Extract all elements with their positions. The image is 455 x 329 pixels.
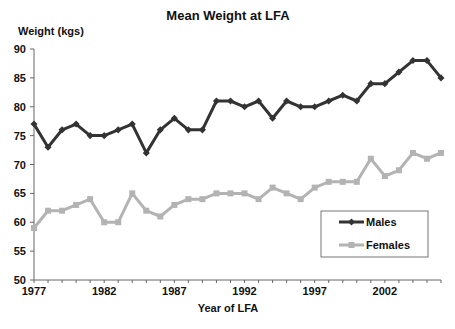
legend: Males Females: [321, 211, 428, 257]
x-tick-label: 1977: [22, 285, 46, 297]
data-point: [213, 190, 219, 196]
data-point: [424, 156, 430, 162]
y-tick-label: 65: [14, 187, 26, 199]
x-tick-label: 2002: [373, 285, 397, 297]
y-tick-label: 85: [14, 72, 26, 84]
data-point: [45, 208, 51, 214]
data-point: [115, 219, 121, 225]
data-point: [185, 196, 191, 202]
series-line: [34, 61, 441, 153]
data-point: [171, 202, 177, 208]
x-tick-label: 1997: [302, 285, 326, 297]
y-tick-label: 55: [14, 245, 26, 257]
data-point: [438, 150, 444, 156]
data-point: [382, 173, 388, 179]
data-point: [256, 196, 262, 202]
chart-svg: Mean Weight at LFA Weight (kgs) Year of …: [0, 0, 455, 329]
data-point: [326, 179, 332, 185]
data-point: [270, 185, 276, 191]
series-group: [30, 57, 444, 231]
data-point: [368, 156, 374, 162]
data-point: [312, 185, 318, 191]
x-tick-label: 1987: [162, 285, 186, 297]
y-tick-label: 90: [14, 43, 26, 55]
data-point: [101, 219, 107, 225]
data-point: [340, 179, 346, 185]
data-point: [143, 208, 149, 214]
y-axis-label: Weight (kgs): [18, 25, 84, 37]
data-point: [410, 150, 416, 156]
data-point: [73, 202, 79, 208]
y-tick-label: 70: [14, 159, 26, 171]
x-axis-label: Year of LFA: [198, 302, 259, 314]
chart-title: Mean Weight at LFA: [166, 8, 290, 23]
legend-label-females: Females: [366, 239, 410, 251]
series-males: [30, 57, 444, 156]
data-point: [396, 167, 402, 173]
data-point: [242, 190, 248, 196]
x-tick-label: 1992: [232, 285, 256, 297]
data-point: [87, 196, 93, 202]
data-point: [284, 190, 290, 196]
data-point: [227, 190, 233, 196]
data-point: [31, 225, 37, 231]
axes: 5055606570758085901977198219871992199720…: [14, 43, 441, 297]
data-point: [157, 213, 163, 219]
y-tick-label: 80: [14, 101, 26, 113]
data-point: [354, 179, 360, 185]
y-tick-label: 60: [14, 216, 26, 228]
data-point: [199, 196, 205, 202]
x-tick-label: 1982: [92, 285, 116, 297]
y-tick-label: 75: [14, 130, 26, 142]
data-point: [129, 190, 135, 196]
legend-label-males: Males: [366, 216, 397, 228]
data-point: [59, 208, 65, 214]
line-chart: Mean Weight at LFA Weight (kgs) Year of …: [0, 0, 455, 329]
square-marker-icon: [349, 242, 355, 248]
data-point: [298, 196, 304, 202]
